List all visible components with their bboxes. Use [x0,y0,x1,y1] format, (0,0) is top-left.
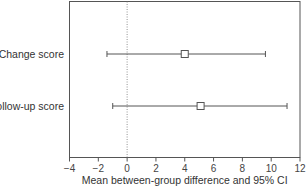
x-tick-label: 0 [124,163,130,174]
x-tick-label: 8 [240,163,246,174]
x-tick-label: 4 [182,163,188,174]
x-axis-label: Mean between-group difference and 95% CI [82,174,288,186]
category-label: Change score [0,48,64,60]
forest-plot: −4−2024681012 Change scoreFollow-up scor… [0,0,306,188]
category-labels: Change scoreFollow-up score [0,48,64,112]
estimate-marker [181,51,188,58]
estimate-marker [197,103,204,110]
category-label: Follow-up score [0,100,64,112]
x-tick-label: 12 [294,163,306,174]
x-axis-ticks: −4−2024681012 [64,158,306,174]
plot-frame [70,2,301,158]
x-tick-label: 2 [153,163,159,174]
estimates [107,51,287,110]
x-tick-label: 10 [266,163,278,174]
x-tick-label: −2 [93,163,105,174]
x-tick-label: 6 [211,163,217,174]
x-tick-label: −4 [64,163,76,174]
